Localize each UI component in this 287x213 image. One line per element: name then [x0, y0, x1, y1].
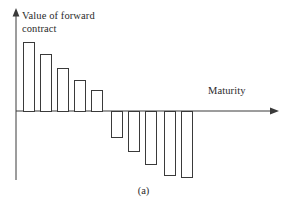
bar-3-positive	[58, 69, 69, 112]
figure-caption: (a)	[0, 185, 287, 196]
bars-group	[24, 43, 193, 178]
x-axis-arrow-icon	[270, 108, 279, 115]
bar-9-negative	[165, 112, 176, 176]
bar-7-negative	[129, 112, 140, 152]
bar-8-negative	[146, 112, 157, 165]
y-axis-label: Value of forward contract	[22, 9, 142, 35]
bar-6-negative	[112, 112, 123, 138]
bar-1-positive	[24, 43, 35, 112]
bar-10-negative	[182, 112, 193, 178]
bar-5-positive	[92, 91, 103, 112]
y-axis-arrow-icon	[13, 8, 20, 17]
bar-2-positive	[41, 55, 52, 112]
forward-contract-value-figure: Value of forward contract Maturity (a)	[0, 0, 287, 213]
bar-4-positive	[75, 81, 86, 112]
x-axis-label: Maturity	[208, 84, 287, 97]
